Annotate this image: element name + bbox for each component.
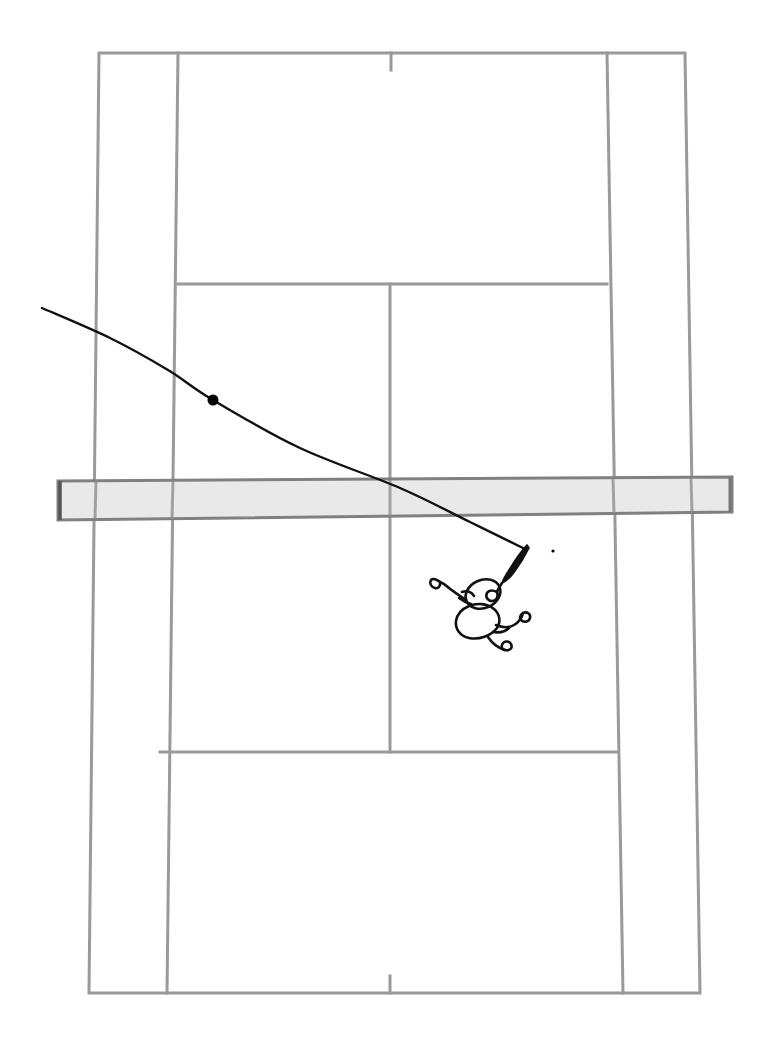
ball-bounce-dot [208,395,219,406]
singles-left-over-net [172,481,173,519]
net-group [58,477,732,520]
loose-ball-dot [551,549,554,552]
court-background [0,0,768,1042]
singles-right-over-net [613,478,614,513]
court-diagram-canvas [0,0,768,1042]
tennis-court-diagram: Tennis court top-down shot diagram [0,0,768,1042]
doubles-right-over-net [691,478,692,513]
doubles-left-over-net [95,481,96,519]
net-band [58,477,732,520]
